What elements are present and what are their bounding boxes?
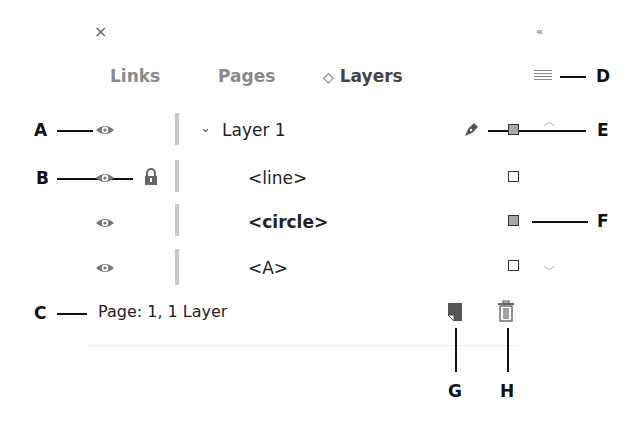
eye-icon[interactable] (95, 124, 115, 136)
callout-e: E (597, 121, 609, 139)
callout-g: G (448, 382, 462, 400)
tab-links[interactable]: Links (110, 66, 160, 86)
callout-a: A (34, 121, 47, 139)
tab-layers-label: Layers (340, 66, 403, 86)
callout-line-c (57, 313, 87, 315)
selection-square[interactable] (508, 171, 519, 182)
layer-name[interactable]: <circle> (248, 212, 328, 232)
scroll-up-icon[interactable]: ︿ (543, 112, 555, 129)
layer-name[interactable]: <line> (248, 168, 307, 188)
row-divider (175, 113, 179, 145)
close-icon[interactable]: × (94, 24, 107, 40)
tab-layers[interactable]: ◇Layers (323, 66, 403, 87)
callout-b: B (36, 169, 49, 187)
callout-line-a (57, 130, 93, 132)
collapse-icon[interactable]: ‹‹ (536, 25, 541, 38)
pen-icon (463, 120, 481, 138)
chevron-down-icon[interactable]: ⌄ (200, 120, 211, 135)
panel-bottom-edge (88, 345, 518, 346)
layer-name[interactable]: <A> (248, 258, 288, 278)
eye-icon[interactable] (95, 172, 115, 184)
layer-name[interactable]: Layer 1 (222, 120, 286, 140)
callout-line-h (507, 328, 509, 372)
status-text: Page: 1, 1 Layer (98, 303, 227, 321)
eye-icon[interactable] (95, 262, 115, 274)
lock-icon[interactable] (143, 168, 159, 186)
panel-menu-icon[interactable] (534, 70, 552, 82)
callout-f: F (597, 212, 609, 230)
tab-pages[interactable]: Pages (218, 66, 275, 86)
selection-square[interactable] (508, 260, 519, 271)
callout-line-e (488, 130, 586, 132)
callout-line-f (532, 221, 588, 223)
scroll-down-icon[interactable]: ﹀ (543, 262, 555, 279)
new-layer-icon[interactable] (446, 302, 464, 322)
callout-d: D (596, 67, 610, 85)
row-divider (175, 249, 179, 285)
row-divider (175, 204, 179, 236)
callout-c: C (34, 304, 46, 322)
updown-icon: ◇ (323, 69, 334, 85)
callout-h: H (500, 382, 514, 400)
eye-icon[interactable] (95, 217, 115, 229)
callout-line-d (560, 76, 586, 78)
selection-square[interactable] (508, 124, 519, 135)
callout-line-g (455, 328, 457, 372)
row-divider (175, 160, 179, 192)
selection-square[interactable] (508, 215, 519, 226)
trash-icon[interactable] (497, 300, 515, 322)
